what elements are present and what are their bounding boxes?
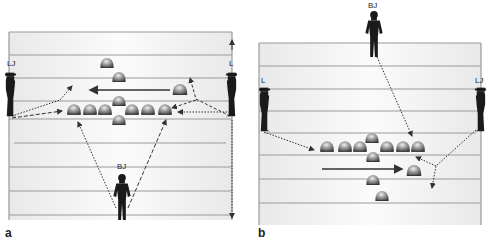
panel-label-a: a xyxy=(5,226,12,240)
panel-b xyxy=(259,11,486,225)
diagram-canvas xyxy=(0,0,490,242)
label-lj-a: LJ xyxy=(7,59,15,68)
label-l-b: L xyxy=(261,76,265,85)
label-bj-b: BJ xyxy=(368,1,377,10)
panel-a xyxy=(5,32,237,220)
label-l-a: L xyxy=(229,59,233,68)
label-lj-b: LJ xyxy=(475,76,483,85)
label-bj-a: BJ xyxy=(117,162,126,171)
panel-label-b: b xyxy=(258,226,265,240)
